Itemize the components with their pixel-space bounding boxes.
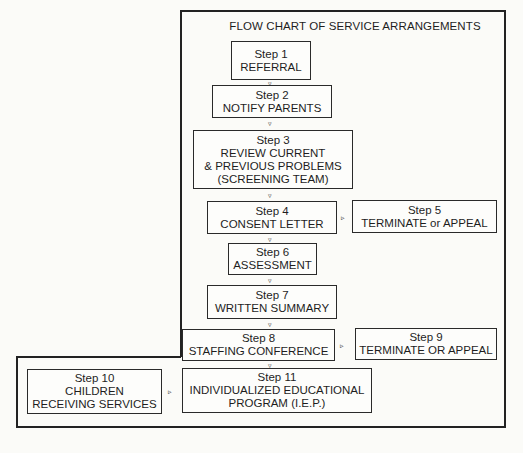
step-11-line-1: INDIVIDUALIZED EDUCATIONAL	[190, 384, 365, 397]
step-8-text: STAFFING CONFERENCE	[189, 345, 329, 358]
arrow-right-icon: ▹	[340, 342, 344, 349]
arrow-right-icon: ▹	[341, 214, 345, 221]
step-1-label: Step 1	[254, 48, 287, 61]
arrow-down-icon: ▿	[268, 192, 272, 199]
step-8-staffing-conference: Step 8 STAFFING CONFERENCE	[182, 329, 335, 361]
step-9-label: Step 9	[409, 331, 442, 344]
step-5-text: TERMINATE or APPEAL	[361, 217, 487, 230]
step-10-label: Step 10	[75, 372, 115, 385]
arrow-down-icon: ▿	[268, 321, 272, 328]
step-2-notify-parents: Step 2 NOTIFY PARENTS	[212, 85, 332, 118]
arrow-down-icon: ▿	[268, 236, 272, 243]
step-5-label: Step 5	[408, 204, 441, 217]
arrow-down-icon: ▿	[268, 277, 272, 284]
step-3-line-1: REVIEW CURRENT	[221, 147, 326, 160]
step-2-text: NOTIFY PARENTS	[223, 102, 322, 115]
step-11-label: Step 11	[258, 371, 297, 384]
step-3-line-2: & PREVIOUS PROBLEMS	[204, 160, 341, 173]
step-2-label: Step 2	[255, 89, 288, 102]
step-6-text: ASSESSMENT	[233, 259, 312, 272]
step-7-label: Step 7	[255, 289, 288, 302]
arrow-right-icon: ▹	[168, 388, 172, 395]
step-1-text: REFERRAL	[240, 61, 301, 74]
step-8-label: Step 8	[242, 332, 275, 345]
step-5-terminate-or-appeal: Step 5 TERMINATE or APPEAL	[352, 200, 497, 233]
step-10-line-1: CHILDREN	[65, 385, 124, 398]
step-9-text: TERMINATE OR APPEAL	[359, 344, 492, 357]
step-11-iep: Step 11 INDIVIDUALIZED EDUCATIONAL PROGR…	[182, 368, 372, 413]
step-3-label: Step 3	[256, 134, 289, 147]
step-10-children-receiving-services: Step 10 CHILDREN RECEIVING SERVICES	[27, 369, 162, 414]
chart-title: FLOW CHART OF SERVICE ARRANGEMENTS	[200, 20, 510, 32]
step-4-label: Step 4	[255, 205, 288, 218]
step-7-written-summary: Step 7 WRITTEN SUMMARY	[207, 285, 337, 319]
step-9-terminate-or-appeal: Step 9 TERMINATE OR APPEAL	[355, 328, 497, 360]
step-3-line-3: (SCREENING TEAM)	[218, 173, 329, 186]
step-3-review-problems: Step 3 REVIEW CURRENT & PREVIOUS PROBLEM…	[193, 130, 353, 189]
step-11-line-2: PROGRAM (I.E.P.)	[229, 397, 326, 410]
step-1-referral: Step 1 REFERRAL	[231, 41, 311, 80]
step-4-consent-letter: Step 4 CONSENT LETTER	[207, 201, 337, 234]
step-7-text: WRITTEN SUMMARY	[215, 302, 329, 315]
step-4-text: CONSENT LETTER	[220, 218, 323, 231]
step-6-assessment: Step 6 ASSESSMENT	[228, 243, 317, 275]
step-6-label: Step 6	[256, 246, 289, 259]
arrow-down-icon: ▿	[268, 120, 272, 127]
step-10-line-2: RECEIVING SERVICES	[32, 398, 156, 411]
